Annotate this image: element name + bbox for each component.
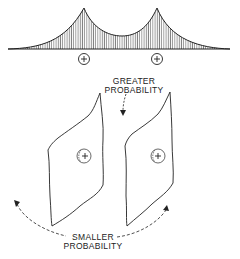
greater-label-line2: PROBABILITY <box>102 86 166 95</box>
greater-probability-arrow <box>120 94 126 116</box>
smaller-probability-label: SMALLER PROBABILITY <box>58 233 128 251</box>
probability-diagram <box>0 0 240 259</box>
ion-marker-top-left <box>79 54 90 65</box>
greater-probability-label: GREATER PROBABILITY <box>102 77 166 95</box>
left-plane-panel <box>48 93 103 226</box>
right-plane-panel <box>125 92 173 226</box>
ion-marker-top-right <box>152 54 163 65</box>
smaller-label-line2: PROBABILITY <box>58 242 128 251</box>
density-curve <box>8 8 230 49</box>
